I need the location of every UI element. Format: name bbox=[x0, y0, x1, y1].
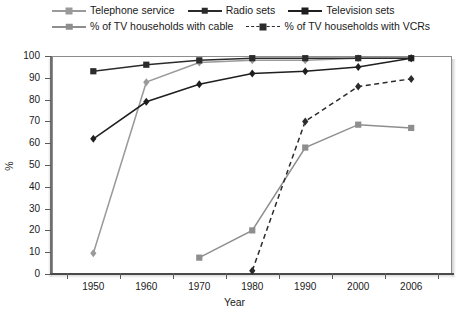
series-line-4 bbox=[252, 79, 411, 271]
data-point bbox=[355, 122, 361, 128]
data-point bbox=[249, 55, 255, 61]
data-point bbox=[302, 67, 308, 75]
data-point bbox=[408, 125, 414, 131]
series-line-0 bbox=[93, 58, 411, 253]
data-point bbox=[355, 63, 361, 71]
data-point bbox=[143, 78, 149, 86]
data-point bbox=[249, 69, 255, 77]
data-point bbox=[196, 57, 202, 63]
data-point bbox=[90, 249, 96, 257]
data-point bbox=[408, 75, 414, 83]
data-point bbox=[143, 98, 149, 106]
data-point bbox=[249, 267, 255, 275]
data-point bbox=[302, 55, 308, 61]
data-point bbox=[196, 255, 202, 261]
data-point bbox=[302, 117, 308, 125]
data-point bbox=[90, 68, 96, 74]
data-point bbox=[90, 135, 96, 143]
data-point bbox=[143, 62, 149, 68]
series-layer bbox=[0, 0, 469, 314]
data-point bbox=[355, 55, 361, 61]
data-point bbox=[249, 227, 255, 233]
data-point bbox=[196, 80, 202, 88]
data-point bbox=[302, 144, 308, 150]
data-point bbox=[355, 83, 361, 91]
chart-container: Telephone service Radio sets Television … bbox=[0, 0, 469, 314]
